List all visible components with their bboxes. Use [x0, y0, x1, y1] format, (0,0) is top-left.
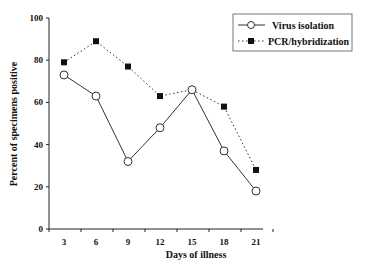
- square-marker-icon: [125, 64, 131, 70]
- circle-marker-icon: [92, 92, 100, 100]
- x-tick-label: 6: [94, 237, 99, 247]
- circle-marker-icon: [188, 86, 196, 94]
- square-marker-icon: [61, 59, 67, 65]
- square-marker-icon: [221, 104, 227, 110]
- legend-circle-marker-icon: [248, 22, 255, 29]
- x-tick-label: 18: [220, 237, 230, 247]
- circle-marker-icon: [60, 71, 68, 79]
- x-tick-label: 15: [188, 237, 198, 247]
- y-tick-label: 40: [34, 140, 44, 150]
- x-tick-label: 12: [156, 237, 166, 247]
- x-tick-label: 21: [252, 237, 262, 247]
- series-virus-isolation: [60, 71, 260, 195]
- y-tick-label: 60: [34, 97, 44, 107]
- legend: Virus isolation PCR/hybridization: [233, 14, 352, 51]
- square-marker-icon: [93, 38, 99, 44]
- circle-marker-icon: [252, 187, 260, 195]
- y-tick-label: 0: [39, 224, 44, 234]
- x-tick-label: 3: [62, 237, 67, 247]
- square-marker-icon: [253, 167, 259, 173]
- circle-marker-icon: [124, 157, 132, 165]
- x-tick-label: 9: [126, 237, 131, 247]
- y-tick-label: 20: [34, 182, 44, 192]
- circle-marker-icon: [156, 124, 164, 132]
- series-group: [60, 38, 260, 195]
- y-tick-label: 100: [30, 13, 44, 23]
- series-pcr-hybridization: [61, 38, 259, 173]
- x-axis-title: Days of illness: [166, 249, 227, 260]
- y-tick-label: 80: [34, 55, 44, 65]
- y-axis-title: Percent of specimens positive: [8, 61, 19, 186]
- legend-square-marker-icon: [248, 38, 254, 44]
- legend-label-virus: Virus isolation: [272, 20, 335, 31]
- legend-label-pcr: PCR/hybridization: [268, 36, 350, 47]
- square-marker-icon: [157, 93, 163, 99]
- circle-marker-icon: [220, 147, 228, 155]
- line-chart: 02040608010036912151821 Days of illness …: [0, 0, 369, 277]
